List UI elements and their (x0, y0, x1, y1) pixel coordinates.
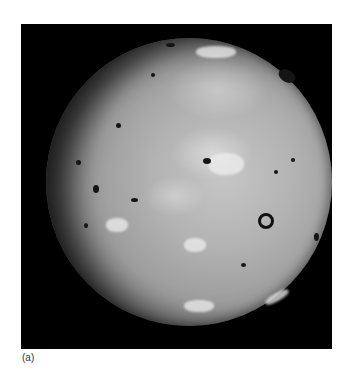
dark-spot (291, 158, 295, 162)
dark-spot (166, 43, 175, 47)
dark-spot (76, 160, 81, 165)
dark-spot (131, 198, 138, 202)
bright-region (208, 153, 244, 175)
moon-photograph (21, 24, 332, 349)
dark-spot (314, 233, 319, 241)
dark-spot (151, 73, 155, 77)
bright-region (184, 238, 206, 252)
dark-spot (84, 223, 88, 228)
bright-region (264, 287, 291, 307)
bright-region (196, 46, 236, 58)
dark-spot (241, 263, 246, 267)
dark-spot (203, 158, 211, 164)
dark-spot (274, 170, 278, 174)
dark-spot (258, 213, 274, 229)
dark-spot (116, 123, 121, 128)
bright-region (184, 300, 214, 312)
figure-caption: (a) (22, 352, 34, 363)
dark-spot (93, 185, 99, 193)
moon-disk (46, 38, 332, 326)
bright-region (106, 218, 128, 232)
dark-spot (276, 66, 298, 85)
